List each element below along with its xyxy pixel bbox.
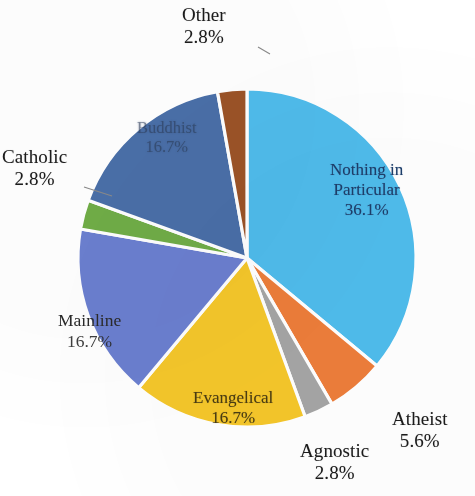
slice-label-buddhist: Buddhist 16.7%: [137, 118, 197, 157]
slice-label-agnostic-name: Agnostic: [300, 440, 369, 461]
slice-value-catholic: 2.8%: [2, 168, 67, 190]
slice-value-buddhist: 16.7%: [137, 137, 197, 156]
slice-label-catholic-name: Catholic: [2, 146, 67, 167]
slice-value-agnostic: 2.8%: [300, 462, 369, 484]
pie-chart: Nothing in Particular 36.1% Evangelical …: [0, 0, 475, 496]
slice-label-nothing-line1: Nothing in: [330, 160, 403, 179]
slice-label-atheist: Atheist 5.6%: [392, 408, 448, 452]
leader-line-other: [258, 47, 270, 54]
slice-label-buddhist-name: Buddhist: [137, 118, 197, 137]
slice-label-other-name: Other: [182, 4, 226, 25]
slice-label-agnostic: Agnostic 2.8%: [300, 440, 369, 484]
slice-label-other: Other 2.8%: [182, 4, 226, 48]
slice-value-atheist: 5.6%: [392, 430, 448, 452]
pie-slice-group: [78, 89, 416, 427]
slice-label-evangelical-name: Evangelical: [193, 388, 273, 407]
slice-label-mainline-name: Mainline: [58, 310, 121, 330]
slice-label-mainline: Mainline 16.7%: [58, 310, 121, 351]
slice-label-evangelical: Evangelical 16.7%: [193, 388, 273, 428]
slice-value-mainline: 16.7%: [58, 331, 121, 352]
slice-value-evangelical: 16.7%: [193, 408, 273, 428]
slice-label-atheist-name: Atheist: [392, 408, 448, 429]
slice-label-nothing-line2: Particular: [334, 180, 400, 199]
slice-label-nothing-in-particular: Nothing in Particular 36.1%: [330, 160, 403, 220]
slice-value-other: 2.8%: [182, 26, 226, 48]
slice-label-catholic: Catholic 2.8%: [2, 146, 67, 190]
slice-value-nothing-in-particular: 36.1%: [330, 200, 403, 220]
